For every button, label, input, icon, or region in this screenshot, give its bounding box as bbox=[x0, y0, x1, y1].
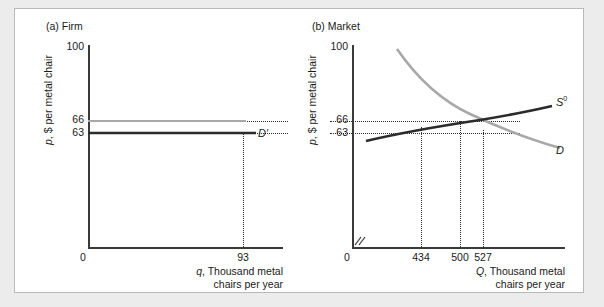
market-ytick-66: 66 bbox=[322, 113, 348, 125]
market-xtick-527: 527 bbox=[470, 251, 496, 263]
market-dotted-quantity-434 bbox=[421, 127, 422, 247]
market-dotted-quantity-500 bbox=[460, 121, 461, 247]
market-dotted-price-63 bbox=[330, 133, 520, 134]
market-xtick-434: 434 bbox=[408, 251, 434, 263]
market-y-axis-line bbox=[352, 45, 354, 248]
firm-dotted-quantity-93 bbox=[243, 133, 244, 247]
firm-x-axis-line bbox=[88, 247, 283, 249]
firm-ytick-66: 66 bbox=[58, 113, 84, 125]
market-yaxis-title: p, $ per metal chair bbox=[306, 55, 318, 145]
figure-inner-panel bbox=[14, 8, 584, 293]
firm-xtick-93: 93 bbox=[231, 251, 255, 263]
firm-curve-label-prime: ′ bbox=[266, 127, 268, 139]
market-ytick-63: 63 bbox=[322, 126, 348, 138]
market-curve-label-demand: D bbox=[556, 144, 564, 156]
market-origin-label: 0 bbox=[344, 251, 350, 263]
market-xaxis-title: Q, Thousand metalchairs per year bbox=[437, 265, 565, 290]
market-curve-label-supply: S0 bbox=[556, 95, 567, 108]
market-dotted-price-66 bbox=[330, 121, 520, 122]
firm-ytick-100: 100 bbox=[58, 40, 84, 52]
firm-curve-label-d-prime: D′ bbox=[258, 127, 268, 139]
market-ytick-100: 100 bbox=[322, 40, 348, 52]
firm-origin-label: 0 bbox=[80, 251, 86, 263]
firm-yaxis-title: p, $ per metal chair bbox=[42, 55, 54, 145]
firm-dotted-price-66 bbox=[88, 121, 288, 122]
firm-curve-label-d-text: D bbox=[258, 127, 266, 139]
figure-root: (a) Firm p, $ per metal chair 100 66 63 … bbox=[0, 0, 604, 307]
panel-title-market: (b) Market bbox=[312, 20, 360, 32]
firm-xaxis-title: q, Thousand metalchairs per year bbox=[155, 265, 283, 290]
firm-ytick-63: 63 bbox=[58, 126, 84, 138]
firm-y-axis-line bbox=[88, 45, 90, 248]
market-dotted-quantity-527 bbox=[483, 130, 484, 247]
panel-title-firm: (a) Firm bbox=[46, 20, 83, 32]
market-curve-label-s-superscript: 0 bbox=[563, 95, 567, 102]
market-x-axis-line bbox=[352, 247, 565, 249]
